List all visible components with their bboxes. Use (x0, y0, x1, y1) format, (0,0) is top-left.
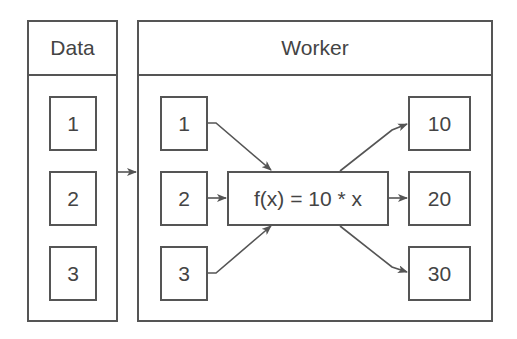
worker-output-10: 10 (408, 96, 471, 151)
worker-panel-title: Worker (139, 22, 491, 76)
worker-input-1: 1 (160, 96, 208, 151)
data-item-1: 1 (49, 96, 97, 151)
data-item-3: 3 (49, 246, 97, 301)
worker-output-20: 20 (408, 171, 471, 226)
worker-input-2: 2 (160, 171, 208, 226)
worker-input-3: 3 (160, 246, 208, 301)
function-box: f(x) = 10 * x (227, 171, 389, 226)
data-panel-title: Data (29, 22, 116, 76)
worker-output-30: 30 (408, 246, 471, 301)
data-item-2: 2 (49, 171, 97, 226)
